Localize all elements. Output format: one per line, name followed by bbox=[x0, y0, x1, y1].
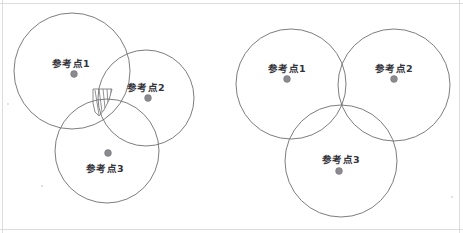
figure-root: 参考点1参考点2参考点3 参考点1参考点2参考点3 bbox=[0, 0, 463, 233]
hatch-line-4 bbox=[107, 89, 108, 103]
scan-speck-1 bbox=[41, 185, 43, 187]
hatch-line-3 bbox=[103, 89, 105, 108]
figure-canvas: 参考点1参考点2参考点3 参考点1参考点2参考点3 bbox=[0, 0, 463, 233]
reference-point-dot-1[interactable] bbox=[284, 76, 291, 83]
reference-point-dot-3[interactable] bbox=[105, 150, 112, 157]
reference-point-dot-2[interactable] bbox=[145, 95, 152, 102]
reference-point-dot-1[interactable] bbox=[71, 71, 78, 78]
reference-point-label-3: 参考点3 bbox=[85, 163, 123, 174]
range-circle-1 bbox=[236, 29, 346, 139]
reference-point-label-3: 参考点3 bbox=[321, 154, 359, 165]
ambiguous-intersection-panel: 参考点1参考点2参考点3 bbox=[14, 13, 194, 203]
exact-intersection-panel: 参考点1参考点2参考点3 bbox=[236, 29, 450, 217]
reference-point-label-2: 参考点2 bbox=[374, 63, 412, 74]
reference-point-dot-2[interactable] bbox=[391, 76, 398, 83]
reference-point-dot-3[interactable] bbox=[336, 168, 343, 175]
reference-point-label-1: 参考点1 bbox=[267, 63, 305, 74]
reference-point-label-2: 参考点2 bbox=[126, 82, 164, 93]
reference-point-label-1: 参考点1 bbox=[51, 58, 89, 69]
scan-speck-3 bbox=[7, 103, 9, 105]
range-circle-2 bbox=[338, 29, 450, 141]
scan-specks bbox=[7, 103, 453, 198]
scan-border bbox=[0, 0, 463, 233]
scan-speck-2 bbox=[451, 196, 453, 198]
